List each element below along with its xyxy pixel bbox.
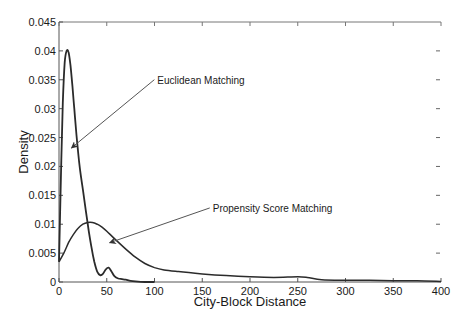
- x-tick-label: 0: [56, 285, 62, 297]
- euclidean-arrow-icon: [71, 80, 154, 148]
- y-tick-label: 0.005: [28, 247, 56, 259]
- density-chart: 050100150200250300350400 00.0050.010.015…: [0, 0, 468, 322]
- y-tick-label: 0.015: [28, 189, 56, 201]
- y-axis: 00.0050.010.0150.020.0250.030.0350.040.0…: [28, 16, 440, 288]
- propensity-arrow-icon: [110, 208, 210, 243]
- euclidean-matching-label: Euclidean Matching: [157, 75, 244, 86]
- euclidean-matching-line: [59, 50, 155, 282]
- x-tick-label: 400: [432, 285, 450, 297]
- y-tick-label: 0.01: [35, 218, 56, 230]
- x-axis: 050100150200250300350400: [56, 22, 450, 297]
- x-tick-label: 350: [384, 285, 402, 297]
- y-axis-label: Density: [16, 130, 31, 174]
- propensity-score-matching-line: [59, 222, 441, 281]
- x-axis-label: City-Block Distance: [194, 294, 307, 309]
- annotations: Euclidean MatchingPropensity Score Match…: [71, 75, 332, 243]
- y-tick-label: 0.03: [35, 103, 56, 115]
- y-tick-label: 0.04: [35, 45, 56, 57]
- y-tick-label: 0: [50, 276, 56, 288]
- x-tick-label: 300: [336, 285, 354, 297]
- x-tick-label: 50: [101, 285, 113, 297]
- propensity-score-matching-label: Propensity Score Matching: [213, 203, 333, 214]
- series-lines: [59, 50, 441, 282]
- x-tick-label: 100: [145, 285, 163, 297]
- y-tick-label: 0.035: [28, 74, 56, 86]
- y-tick-label: 0.025: [28, 132, 56, 144]
- y-tick-label: 0.02: [35, 160, 56, 172]
- plot-frame: [59, 22, 441, 282]
- y-tick-label: 0.045: [28, 16, 56, 28]
